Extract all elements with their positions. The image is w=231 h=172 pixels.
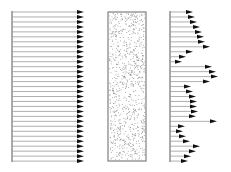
velocity-arrow (170, 30, 202, 34)
velocity-arrow (170, 45, 210, 49)
velocity-arrow (12, 10, 84, 14)
velocity-arrow (12, 134, 84, 138)
arrowhead-icon (77, 134, 84, 138)
arrowhead-icon (77, 15, 84, 19)
arrowhead-icon (77, 25, 84, 29)
arrowhead-icon (77, 75, 84, 79)
arrowhead-icon (190, 20, 197, 24)
velocity-arrow (12, 70, 84, 74)
velocity-arrow (12, 90, 84, 94)
arrowhead-icon (77, 104, 84, 108)
velocity-arrow (12, 139, 84, 143)
velocity-arrow (170, 124, 185, 128)
velocity-arrow (12, 40, 84, 44)
arrowhead-icon (179, 134, 186, 138)
velocity-arrow (170, 154, 191, 158)
velocity-arrow (12, 94, 84, 98)
arrowhead-icon (77, 144, 84, 148)
velocity-arrow (12, 15, 84, 19)
velocity-arrow (12, 159, 84, 163)
velocity-arrow (12, 114, 84, 118)
arrowhead-icon (77, 60, 84, 64)
velocity-arrow (170, 15, 195, 19)
velocity-arrow (170, 149, 196, 153)
velocity-arrow (12, 109, 84, 113)
arrowhead-icon (205, 65, 212, 69)
arrowhead-icon (203, 80, 210, 84)
stippled-porous-block (108, 12, 146, 161)
velocity-arrow (12, 65, 84, 69)
arrowhead-icon (186, 10, 193, 14)
arrowhead-icon (77, 124, 84, 128)
velocity-arrow (12, 55, 84, 59)
uniform-velocity-profile (12, 10, 84, 163)
arrowhead-icon (209, 70, 216, 74)
arrowhead-icon (181, 159, 188, 163)
arrowhead-icon (77, 154, 84, 158)
arrowhead-icon (77, 149, 84, 153)
arrowhead-icon (211, 75, 218, 79)
arrowhead-icon (193, 25, 200, 29)
arrowhead-icon (77, 65, 84, 69)
velocity-arrow (12, 50, 84, 54)
arrowhead-icon (175, 60, 182, 64)
velocity-arrow (12, 45, 84, 49)
velocity-arrow (12, 60, 84, 64)
arrowhead-icon (193, 144, 200, 148)
arrowhead-icon (186, 90, 193, 94)
arrowhead-icon (179, 55, 186, 59)
velocity-arrow (12, 35, 84, 39)
arrowhead-icon (197, 35, 204, 39)
velocity-arrow (170, 129, 183, 133)
velocity-arrow (12, 30, 84, 34)
velocity-arrow (170, 85, 191, 89)
velocity-arrow (170, 99, 197, 103)
arrowhead-icon (77, 109, 84, 113)
velocity-arrow (170, 109, 198, 113)
arrowhead-icon (189, 149, 196, 153)
velocity-arrow (170, 80, 210, 84)
arrowhead-icon (77, 159, 84, 163)
arrowhead-icon (195, 30, 202, 34)
velocity-arrow (170, 60, 182, 64)
velocity-arrow (12, 129, 84, 133)
velocity-arrow (170, 70, 216, 74)
velocity-arrow (170, 40, 205, 44)
velocity-arrow (170, 90, 193, 94)
velocity-arrow (170, 35, 204, 39)
velocity-arrow (170, 65, 212, 69)
velocity-arrow (170, 134, 186, 138)
velocity-arrow (170, 20, 197, 24)
velocity-arrow (12, 99, 84, 103)
velocity-arrow (170, 94, 196, 98)
velocity-arrow (12, 75, 84, 79)
arrowhead-icon (203, 45, 210, 49)
arrowhead-icon (184, 85, 191, 89)
arrowhead-icon (77, 90, 84, 94)
diagram-canvas (0, 0, 231, 172)
arrowhead-icon (186, 50, 193, 54)
arrowhead-icon (210, 119, 217, 123)
arrowhead-icon (77, 40, 84, 44)
velocity-arrow (12, 144, 84, 148)
velocity-arrow (170, 114, 196, 118)
arrowhead-icon (190, 99, 197, 103)
velocity-arrow (12, 154, 84, 158)
arrowhead-icon (77, 94, 84, 98)
arrowhead-icon (77, 70, 84, 74)
velocity-arrow (12, 104, 84, 108)
velocity-arrow (12, 124, 84, 128)
velocity-arrow (12, 80, 84, 84)
velocity-arrow (12, 20, 84, 24)
arrowhead-icon (178, 124, 185, 128)
arrowhead-icon (184, 154, 191, 158)
velocity-arrow (170, 50, 193, 54)
arrowhead-icon (188, 15, 195, 19)
velocity-arrow (170, 159, 188, 163)
velocity-arrow (170, 104, 197, 108)
arrowhead-icon (77, 30, 84, 34)
arrowhead-icon (77, 85, 84, 89)
velocity-arrow (12, 85, 84, 89)
velocity-arrow (170, 10, 193, 14)
arrowhead-icon (77, 35, 84, 39)
